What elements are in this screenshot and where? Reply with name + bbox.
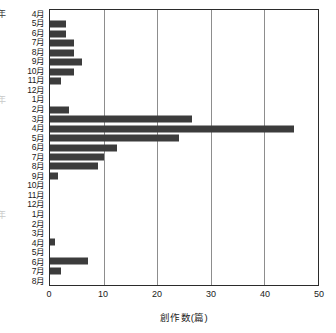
bar: [50, 267, 61, 274]
bar-row: [50, 228, 318, 237]
bar-row: [50, 10, 318, 19]
y-tick-label: 1月: [32, 210, 45, 219]
y-tick-label: 11月: [28, 191, 45, 200]
bar: [50, 30, 66, 37]
bar-row: [50, 76, 318, 85]
bar-row: [50, 19, 318, 28]
y-tick-label: 6月: [32, 29, 45, 38]
bar: [50, 144, 117, 151]
bar: [50, 49, 74, 56]
y-label-row: 11月: [0, 76, 48, 86]
y-tick-label: 7月: [32, 38, 45, 47]
bar-row: [50, 190, 318, 199]
y-tick-label: 3月: [32, 229, 45, 238]
y-axis-labels: 年4月5月6月7月8月9月10月11月12月年1月2月3月4月5月6月7月8月9…: [0, 9, 48, 286]
bar: [50, 239, 55, 246]
bar: [50, 163, 98, 170]
bar: [50, 154, 104, 161]
bar: [50, 116, 192, 123]
y-tick-label: 3月: [32, 115, 45, 124]
bar-row: [50, 171, 318, 180]
y-tick-label: 9月: [32, 57, 45, 66]
bar: [50, 135, 179, 142]
bar-row: [50, 124, 318, 133]
y-label-row: 8月: [0, 276, 48, 286]
bar-row: [50, 29, 318, 38]
y-tick-label: 6月: [32, 143, 45, 152]
y-tick-label: 5月: [32, 248, 45, 257]
bar-row: [50, 200, 318, 209]
bar-row: [50, 276, 318, 285]
bar-row: [50, 95, 318, 104]
bar: [50, 258, 88, 265]
bar: [50, 78, 61, 85]
y-tick-label: 8月: [32, 277, 45, 286]
y-tick-label: 12月: [27, 200, 45, 209]
y-tick-label: 4月: [32, 10, 45, 19]
y-label-row: 8月: [0, 162, 48, 172]
x-axis-ticks: 01020304050: [49, 289, 319, 302]
bar: [50, 125, 294, 132]
x-tick-label: 20: [152, 289, 162, 299]
bar-row: [50, 114, 318, 123]
bar-rows: [50, 10, 318, 285]
y-label-row: 5月: [0, 19, 48, 29]
bar-row: [50, 162, 318, 171]
y-label-row: 5月: [0, 248, 48, 258]
y-tick-label: 10月: [27, 67, 45, 76]
y-tick-label: 7月: [32, 153, 45, 162]
y-label-row: 7月: [0, 38, 48, 48]
y-label-row: 7月: [0, 267, 48, 277]
bar-row: [50, 57, 318, 66]
y-tick-label: 4月: [32, 239, 45, 248]
bar-row: [50, 247, 318, 256]
y-tick-label: 1月: [32, 95, 45, 104]
bar-row: [50, 257, 318, 266]
y-label-row: 10月: [0, 181, 48, 191]
y-tick-label: 2月: [32, 220, 45, 229]
bar-row: [50, 105, 318, 114]
bar: [50, 40, 74, 47]
bar-row: [50, 48, 318, 57]
y-tick-label: 12月: [27, 86, 45, 95]
y-tick-label: 7月: [32, 267, 45, 276]
x-tick-label: 10: [98, 289, 108, 299]
bar: [50, 59, 82, 66]
bar-row: [50, 133, 318, 142]
y-tick-label: 6月: [32, 258, 45, 267]
x-tick-label: 40: [260, 289, 270, 299]
bar: [50, 106, 69, 113]
y-tick-label: 9月: [32, 172, 45, 181]
y-tick-label: 4月: [32, 124, 45, 133]
y-tick-label: 8月: [32, 162, 45, 171]
year-group-marker: 年: [0, 93, 6, 106]
bar-row: [50, 86, 318, 95]
y-label-row: 年1月: [0, 209, 48, 219]
bar-row: [50, 219, 318, 228]
y-label-row: 9月: [0, 57, 48, 67]
bar-row: [50, 181, 318, 190]
y-label-row: 2月: [0, 104, 48, 114]
y-tick-label: 5月: [32, 19, 45, 28]
y-tick-label: 11月: [28, 76, 45, 85]
y-tick-label: 8月: [32, 48, 45, 57]
bar-row: [50, 38, 318, 47]
y-label-row: 4月: [0, 124, 48, 134]
bar-row: [50, 67, 318, 76]
bar-chart: 年4月5月6月7月8月9月10月11月12月年1月2月3月4月5月6月7月8月9…: [0, 0, 336, 333]
x-tick-label: 0: [46, 289, 51, 299]
year-group-marker: 年: [0, 208, 6, 221]
bar: [50, 68, 74, 75]
bar-row: [50, 209, 318, 218]
bar-row: [50, 266, 318, 275]
bar-row: [50, 152, 318, 161]
bar: [50, 172, 58, 179]
y-tick-label: 2月: [32, 105, 45, 114]
year-group-marker: 年: [0, 7, 6, 20]
x-tick-label: 50: [314, 289, 324, 299]
y-label-row: 6月: [0, 143, 48, 153]
y-tick-label: 10月: [27, 181, 45, 190]
x-tick-label: 30: [206, 289, 216, 299]
y-tick-label: 5月: [32, 134, 45, 143]
y-label-row: 3月: [0, 229, 48, 239]
